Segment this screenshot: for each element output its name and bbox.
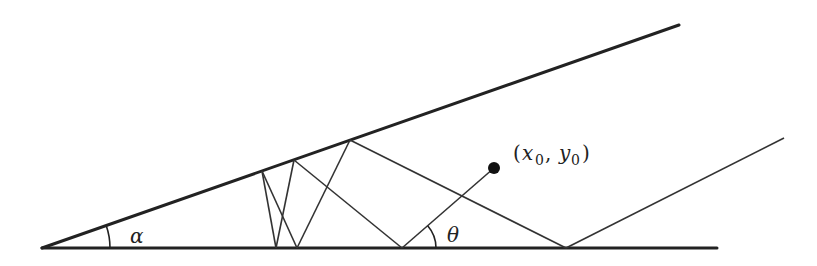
alpha-arc bbox=[106, 225, 110, 248]
point-label-close-paren: ) bbox=[582, 141, 590, 165]
theta-label: θ bbox=[447, 223, 459, 247]
point-marker bbox=[488, 162, 500, 174]
point-label: ( x 0 , y 0 ) bbox=[513, 141, 590, 168]
reflection-segment bbox=[262, 171, 297, 248]
outgoing-ray bbox=[566, 138, 784, 248]
point-label-comma: , bbox=[545, 141, 551, 165]
wedge-diagram: α θ ( x 0 , y 0 ) bbox=[0, 0, 817, 266]
reflection-segment bbox=[262, 171, 276, 248]
reflection-segment bbox=[294, 160, 402, 248]
point-label-x-subscript: 0 bbox=[535, 152, 544, 168]
point-label-y: y bbox=[558, 141, 571, 165]
point-label-x: x bbox=[522, 141, 533, 165]
point-label-y-subscript: 0 bbox=[571, 152, 580, 168]
point-label-open-paren: ( bbox=[513, 141, 521, 165]
theta-arc bbox=[428, 226, 436, 248]
alpha-label: α bbox=[130, 224, 144, 248]
